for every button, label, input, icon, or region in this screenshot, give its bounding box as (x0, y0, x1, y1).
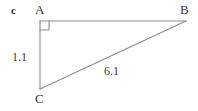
side-cb (40, 21, 186, 89)
geometry-figure: c A B C 1.1 6.1 (0, 0, 198, 111)
vertex-label-a: A (35, 3, 44, 16)
vertex-label-c: C (35, 92, 44, 105)
right-angle-marker-icon (40, 21, 49, 30)
side-length-label-cb: 6.1 (104, 65, 119, 77)
side-length-label-ac: 1.1 (12, 51, 27, 63)
vertex-label-b: B (180, 3, 189, 16)
triangle-diagram (0, 0, 198, 111)
part-label: c (11, 5, 16, 16)
